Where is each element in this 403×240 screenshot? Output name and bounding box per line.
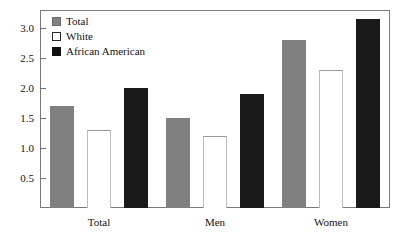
y-axis-labels: 0.51.01.52.02.53.0 xyxy=(0,0,36,240)
legend-label-white: White xyxy=(66,31,93,42)
legend-swatch-total-icon xyxy=(52,17,61,26)
y-axis-tick-label: 1.0 xyxy=(0,143,34,154)
bar-total-total xyxy=(50,106,74,208)
legend-item-white: White xyxy=(52,29,202,43)
bar-women-african-american xyxy=(356,19,380,208)
bar-men-total xyxy=(166,118,190,208)
y-axis-tick-label: 1.5 xyxy=(0,113,34,124)
legend-swatch-african-american-icon xyxy=(52,47,61,56)
x-axis-label-women: Women xyxy=(273,216,389,228)
bar-women-white xyxy=(319,70,343,208)
x-axis-label-total: Total xyxy=(41,216,157,228)
x-axis-label-men: Men xyxy=(157,216,273,228)
y-axis-tick-label: 2.0 xyxy=(0,83,34,94)
legend-label-total: Total xyxy=(66,16,88,27)
bar-total-white xyxy=(87,130,111,208)
legend-item-african-american: African American xyxy=(52,44,202,58)
legend-item-total: Total xyxy=(52,14,202,28)
legend-swatch-white-icon xyxy=(52,32,61,41)
chart-legend: Total White African American xyxy=(52,14,202,59)
bar-men-white xyxy=(203,136,227,208)
bar-total-african-american xyxy=(124,88,148,208)
y-axis-tick-label: 2.5 xyxy=(0,53,34,64)
bar-men-african-american xyxy=(240,94,264,208)
y-axis-tick-label: 3.0 xyxy=(0,23,34,34)
legend-label-african-american: African American xyxy=(66,46,145,57)
bar-women-total xyxy=(282,40,306,208)
y-axis-tick-label: 0.5 xyxy=(0,173,34,184)
bar-chart: 0.51.01.52.02.53.0 TotalMenWomen Total W… xyxy=(0,0,403,240)
